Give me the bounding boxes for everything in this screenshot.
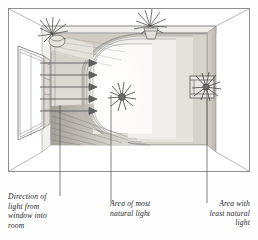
figure-root: Direction of light from window into room… (0, 0, 258, 240)
caption-line: room (8, 221, 82, 231)
caption-line: window into (8, 211, 82, 221)
caption-line: light from (8, 202, 82, 212)
caption-line: Area with (175, 199, 250, 209)
caption-direction-of-light: Direction of light from window into room (8, 192, 82, 230)
caption-line: natural light (110, 209, 182, 219)
caption-line: least natural (175, 209, 250, 219)
caption-least-natural-light: Area with least natural light (175, 199, 250, 228)
caption-line: Area of most (110, 199, 182, 209)
caption-most-natural-light: Area of most natural light (110, 199, 182, 218)
light-zones (82, 33, 207, 145)
back-wall (42, 26, 216, 33)
caption-line: light (175, 218, 250, 228)
caption-line: Direction of (8, 192, 82, 202)
